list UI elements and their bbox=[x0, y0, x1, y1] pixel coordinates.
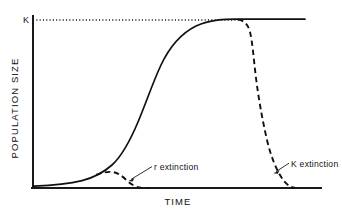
r-extinction-leader-line bbox=[131, 167, 152, 180]
y-axis-title: POPULATION SIZE bbox=[9, 58, 20, 159]
population-growth-figure: K POPULATION SIZE TIME r extinction K ex… bbox=[0, 0, 342, 210]
K-extinction-label: K extinction bbox=[291, 159, 338, 169]
r-extinction-label: r extinction bbox=[154, 162, 199, 172]
K-extinction-leader-line bbox=[276, 163, 289, 171]
r-extinction-arrow-head bbox=[128, 178, 134, 182]
K-extinction-arrow-head bbox=[273, 170, 279, 174]
r-extinction-curve bbox=[96, 172, 149, 188]
K-extinction-curve bbox=[238, 20, 295, 188]
x-axis-title: TIME bbox=[164, 196, 191, 207]
chart-canvas: K POPULATION SIZE TIME r extinction K ex… bbox=[0, 0, 342, 210]
carrying-capacity-label: K bbox=[23, 15, 29, 25]
